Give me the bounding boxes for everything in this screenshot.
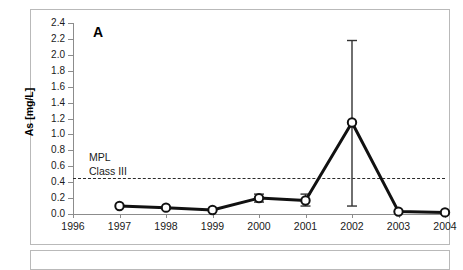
error-bar-group bbox=[254, 41, 357, 207]
chart-panel-a: As [mg/L] A 0.00.20.40.60.81.01.21.41.61… bbox=[30, 9, 450, 245]
data-point-marker bbox=[115, 202, 123, 210]
marker-group bbox=[115, 118, 449, 216]
data-point-marker bbox=[162, 203, 170, 211]
series-line bbox=[120, 122, 446, 212]
data-series-svg bbox=[31, 10, 451, 246]
data-point-marker bbox=[255, 194, 263, 202]
data-point-marker bbox=[348, 118, 356, 126]
data-point-marker bbox=[301, 196, 309, 204]
next-panel-sliver bbox=[30, 250, 450, 270]
data-point-marker bbox=[441, 208, 449, 216]
plot-area: As [mg/L] A 0.00.20.40.60.81.01.21.41.61… bbox=[31, 10, 451, 246]
data-point-marker bbox=[208, 206, 216, 214]
data-point-marker bbox=[394, 207, 402, 215]
